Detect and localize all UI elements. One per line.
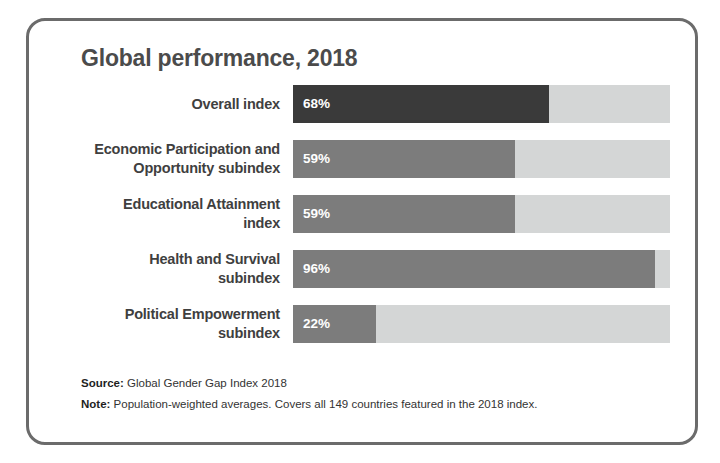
bar-track: 96% <box>293 250 670 288</box>
bar-fill <box>293 85 549 123</box>
bar-category-label: Educational Attainmentindex <box>49 195 280 233</box>
source-label: Source: <box>81 377 124 389</box>
chart-footer: Source: Global Gender Gap Index 2018 Not… <box>81 373 661 415</box>
chart-card: Global performance, 2018 Overall index68… <box>26 18 698 445</box>
note-label: Note: <box>81 398 110 410</box>
bar-row: Political Empowermentsubindex22% <box>29 305 695 343</box>
note-value: Population-weighted averages. Covers all… <box>110 398 537 410</box>
bar-category-label: Economic Participation andOpportunity su… <box>49 140 280 178</box>
bar-track: 59% <box>293 195 670 233</box>
source-line: Source: Global Gender Gap Index 2018 <box>81 373 661 394</box>
bar-row: Educational Attainmentindex59% <box>29 195 695 233</box>
bar-row: Health and Survivalsubindex96% <box>29 250 695 288</box>
bar-category-label: Political Empowermentsubindex <box>49 305 280 343</box>
bar-track: 59% <box>293 140 670 178</box>
bar-category-label: Health and Survivalsubindex <box>49 250 280 288</box>
bar-row: Economic Participation andOpportunity su… <box>29 140 695 178</box>
bar-value-label: 59% <box>303 206 330 221</box>
source-value: Global Gender Gap Index 2018 <box>124 377 287 389</box>
chart-title: Global performance, 2018 <box>81 45 357 72</box>
bar-value-label: 68% <box>303 96 330 111</box>
bar-track: 68% <box>293 85 670 123</box>
note-line: Note: Population-weighted averages. Cove… <box>81 394 661 415</box>
bar-value-label: 96% <box>303 261 330 276</box>
bar-chart: Overall index68%Economic Participation a… <box>29 85 695 355</box>
bar-track: 22% <box>293 305 670 343</box>
bar-category-label: Overall index <box>49 95 280 114</box>
bar-value-label: 59% <box>303 151 330 166</box>
bar-value-label: 22% <box>303 316 330 331</box>
bar-fill <box>293 250 655 288</box>
bar-row: Overall index68% <box>29 85 695 123</box>
